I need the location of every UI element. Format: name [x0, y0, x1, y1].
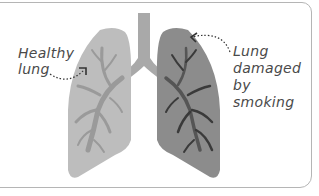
- damaged-label-line3: smoking: [233, 94, 319, 111]
- damaged-label-line2: damaged by: [233, 60, 319, 94]
- healthy-label-line1: Healthy: [18, 45, 74, 61]
- damaged-lung-label: Lung damaged by smoking: [233, 43, 319, 111]
- healthy-label-line2: lung: [18, 61, 74, 77]
- damaged-label-line1: Lung: [233, 43, 319, 60]
- healthy-lung: [68, 28, 131, 178]
- healthy-lung-label: Healthy lung: [18, 45, 74, 77]
- damaged-lung: [157, 28, 220, 178]
